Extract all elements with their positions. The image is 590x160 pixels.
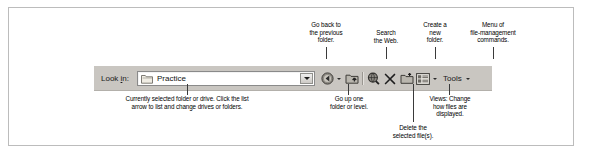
look-in-dropdown-arrow[interactable] bbox=[300, 73, 313, 84]
delete-button[interactable] bbox=[384, 71, 396, 87]
new-folder-icon bbox=[400, 72, 414, 85]
back-dropdown[interactable] bbox=[334, 71, 343, 87]
look-in-value: Practice bbox=[157, 74, 186, 83]
leader-go-back bbox=[326, 47, 327, 59]
callout-menu-commands: Menu of file-management commands. bbox=[453, 21, 533, 44]
callout-create-folder: Create a new folder. bbox=[413, 21, 457, 44]
back-arrow-icon bbox=[321, 72, 334, 85]
leader-search-web bbox=[386, 47, 387, 59]
chevron-down-icon bbox=[433, 78, 437, 80]
new-folder-button[interactable] bbox=[400, 71, 414, 87]
leader-go-up bbox=[348, 84, 349, 95]
views-button[interactable] bbox=[416, 71, 430, 87]
leader-current-folder bbox=[187, 84, 188, 95]
tools-menu-button[interactable]: Tools bbox=[441, 71, 472, 87]
chevron-down-icon bbox=[337, 78, 341, 80]
callout-views: Views: Change how files are displayed. bbox=[421, 95, 479, 118]
folder-icon bbox=[141, 74, 153, 84]
leader-views bbox=[449, 84, 450, 95]
leader-menu-commands bbox=[493, 47, 494, 59]
search-globe-icon bbox=[367, 72, 380, 85]
views-dropdown[interactable] bbox=[430, 71, 439, 87]
close-x-icon bbox=[384, 73, 396, 85]
callout-search-web: Search the Web. bbox=[361, 29, 411, 44]
look-in-label: Look in: bbox=[101, 74, 129, 83]
chevron-down-icon bbox=[304, 77, 310, 80]
toolbar-separator bbox=[362, 72, 364, 85]
views-list-icon bbox=[416, 73, 430, 85]
tools-menu-label: Tools bbox=[443, 74, 462, 83]
look-in-combobox[interactable]: Practice bbox=[137, 71, 315, 86]
callout-delete: Delete the selected file(s). bbox=[384, 124, 442, 139]
chevron-down-icon bbox=[466, 78, 470, 80]
callout-current-folder: Currently selected folder or drive. Clic… bbox=[91, 95, 283, 110]
leader-delete bbox=[413, 84, 414, 122]
search-web-button[interactable] bbox=[367, 71, 380, 87]
callout-go-up: Go up one folder or level. bbox=[321, 95, 377, 110]
callout-go-back: Go back to the previous folder. bbox=[295, 21, 357, 44]
figure-frame: Go back to the previous folder. Search t… bbox=[8, 7, 574, 146]
back-button[interactable] bbox=[321, 71, 334, 87]
leader-create-folder bbox=[435, 47, 436, 59]
dialog-toolbar: Look in: Practice bbox=[94, 66, 492, 91]
